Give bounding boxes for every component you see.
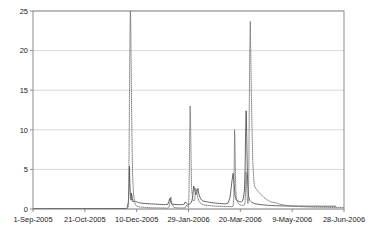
y-tick-label-25: 25: [20, 7, 28, 16]
x-tick-label-0: 1-Sep-2005: [13, 215, 52, 224]
x-tick-label-2: 10-Dec-2005: [115, 215, 158, 224]
y-tick-label-5: 5: [24, 165, 28, 174]
y-tick-label-0: 0: [24, 205, 28, 214]
y-tick-label-10: 10: [20, 126, 28, 135]
x-tick-label-5: 9-May-2006: [272, 215, 312, 224]
x-tick-label-3: 29-Jan-2006: [167, 215, 209, 224]
line-chart: 0510152025 1-Sep-200521-Oct-200510-Dec-2…: [0, 0, 380, 239]
x-tick-label-1: 21-Oct-2005: [64, 215, 106, 224]
y-tick-label-15: 15: [20, 86, 28, 95]
y-tick-label-20: 20: [20, 46, 28, 55]
x-tick-label-4: 20-Mar-2006: [219, 215, 262, 224]
x-tick-label-6: 28-Jun-2006: [323, 215, 365, 224]
chart-container: 0510152025 1-Sep-200521-Oct-200510-Dec-2…: [0, 0, 380, 239]
